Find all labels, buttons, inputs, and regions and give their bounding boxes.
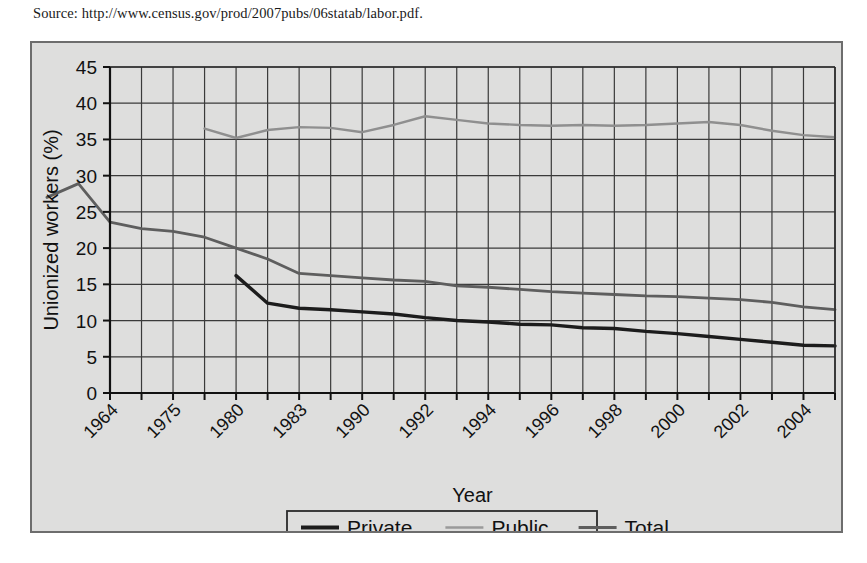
legend-label-total: Total: [625, 516, 669, 532]
legend-label-public: Public: [491, 516, 548, 532]
y-tick-label: 40: [76, 93, 97, 114]
x-axis-title-text: Year: [452, 484, 493, 506]
x-tick-label: 2000: [647, 400, 689, 442]
series-line-total: [47, 184, 835, 310]
data-series-layer: [47, 116, 835, 346]
legend-label-private: Private: [347, 516, 412, 532]
x-tick-label: 2002: [710, 400, 752, 442]
y-tick-label: 0: [86, 383, 97, 404]
x-tick-label: 1990: [332, 400, 374, 442]
y-tick-label: 45: [76, 57, 97, 78]
union-membership-line-chart: 051015202530354045 196419751980198319901…: [32, 43, 841, 531]
y-tick-label: 5: [86, 347, 97, 368]
grid-lines: [110, 67, 835, 393]
x-tick-label: 1983: [268, 400, 310, 442]
chart-legend: PrivatePublicTotal: [287, 511, 669, 531]
y-tick-label: 15: [76, 274, 97, 295]
axis-layer: [103, 67, 835, 400]
y-tick-labels: 051015202530354045: [76, 57, 97, 404]
x-tick-label: 1975: [142, 400, 184, 442]
y-axis-title: Unionized workers (%): [40, 129, 62, 330]
x-tick-label: 2004: [773, 400, 815, 442]
x-tick-label: 1980: [205, 400, 247, 442]
x-tick-label: 1998: [584, 400, 626, 442]
x-tick-label: 1964: [79, 400, 121, 442]
x-tick-label: 1996: [521, 400, 563, 442]
y-tick-label: 30: [76, 166, 97, 187]
chart-container: 051015202530354045 196419751980198319901…: [30, 41, 843, 533]
source-citation: Source: http://www.census.gov/prod/2007p…: [33, 5, 423, 22]
y-tick-label: 10: [76, 311, 97, 332]
x-tick-labels: 1964197519801983199019921994199619982000…: [79, 400, 815, 442]
x-tick-label: 1992: [395, 400, 437, 442]
y-tick-label: 25: [76, 202, 97, 223]
x-axis-title: Year: [452, 484, 493, 506]
y-tick-label: 35: [76, 129, 97, 150]
x-tick-label: 1994: [458, 400, 500, 442]
y-tick-label: 20: [76, 238, 97, 259]
y-axis-title-text: Unionized workers (%): [40, 129, 62, 330]
series-line-private: [236, 276, 835, 346]
